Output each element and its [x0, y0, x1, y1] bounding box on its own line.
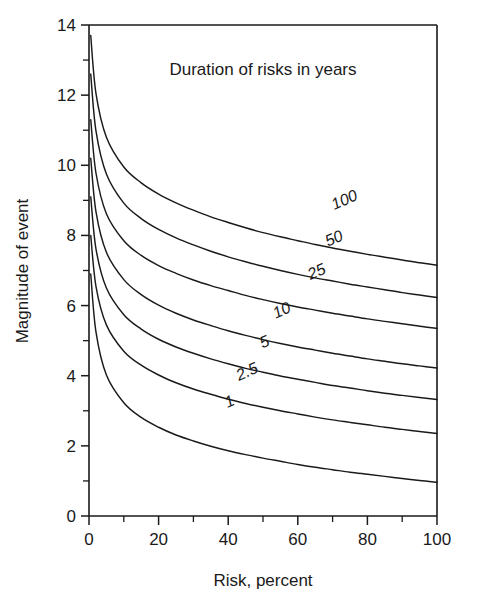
- x-tick-label: 20: [149, 530, 168, 549]
- y-tick-label: 10: [57, 156, 76, 175]
- curve-1: [91, 274, 437, 482]
- y-tick-label: 4: [67, 367, 76, 386]
- curve-label-2.5: 2.5: [232, 359, 260, 384]
- y-tick-label: 0: [67, 507, 76, 526]
- x-tick-label: 80: [358, 530, 377, 549]
- x-tick-label: 100: [423, 530, 451, 549]
- plot-title: Duration of risks in years: [169, 60, 356, 79]
- x-axis-title: Risk, percent: [213, 571, 312, 590]
- risk-magnitude-chart: 10050251052.51 02468101214020406080100 D…: [0, 0, 479, 607]
- curve-5: [91, 197, 437, 400]
- curve-label-100: 100: [329, 186, 360, 212]
- curve-50: [91, 74, 437, 297]
- chart-tick-labels: 02468101214020406080100: [57, 16, 451, 549]
- chart-page: 10050251052.51 02468101214020406080100 D…: [0, 0, 479, 607]
- x-tick-label: 60: [288, 530, 307, 549]
- y-tick-label: 12: [57, 86, 76, 105]
- curve-25: [91, 120, 437, 329]
- chart-axes: [81, 25, 437, 525]
- y-tick-label: 8: [67, 226, 76, 245]
- y-tick-label: 2: [67, 437, 76, 456]
- x-tick-label: 0: [84, 530, 93, 549]
- y-tick-label: 6: [67, 297, 76, 316]
- x-tick-label: 40: [219, 530, 238, 549]
- chart-curves: 10050251052.51: [91, 36, 437, 483]
- y-tick-label: 14: [57, 16, 76, 35]
- y-axis-title: Magnitude of event: [13, 198, 32, 343]
